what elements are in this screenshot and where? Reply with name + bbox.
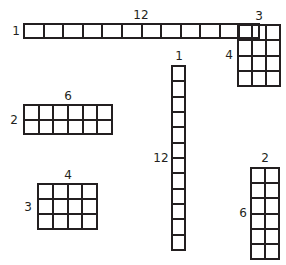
array-cell <box>82 214 97 229</box>
array-cell <box>172 81 185 96</box>
array-cell <box>53 105 68 120</box>
array-cell <box>38 199 53 214</box>
array-cell <box>83 120 98 135</box>
array-width-label: 4 <box>64 169 72 181</box>
array-cell <box>252 25 266 40</box>
array-cell <box>200 24 220 38</box>
array-cell <box>142 24 162 38</box>
array-cell <box>172 173 185 188</box>
array-cell <box>172 235 185 250</box>
array-cell <box>82 184 97 199</box>
array-4x3 <box>37 183 98 230</box>
array-cell <box>252 71 266 86</box>
array-height-label: 4 <box>225 49 233 61</box>
array-height-label: 3 <box>24 201 32 213</box>
array-cell <box>68 214 83 229</box>
array-12x1 <box>23 23 260 39</box>
array-cell <box>68 199 83 214</box>
array-cell <box>251 244 265 259</box>
array-cell <box>251 229 265 244</box>
array-cell <box>265 214 279 229</box>
array-cell <box>172 204 185 219</box>
array-cell <box>68 184 83 199</box>
array-3x4 <box>237 24 281 87</box>
array-cell <box>172 66 185 81</box>
array-cell <box>238 25 252 40</box>
array-2x6 <box>250 167 280 260</box>
array-cell <box>172 219 185 234</box>
array-cell <box>38 184 53 199</box>
array-cell <box>68 105 83 120</box>
array-cell <box>39 105 54 120</box>
array-6x2 <box>23 104 113 135</box>
array-cell <box>38 214 53 229</box>
array-cell <box>172 127 185 142</box>
array-cell <box>251 198 265 213</box>
array-cell <box>266 56 280 71</box>
array-cell <box>265 229 279 244</box>
array-cell <box>97 120 112 135</box>
array-height-label: 12 <box>153 152 168 164</box>
array-cell <box>252 56 266 71</box>
array-cell <box>24 24 44 38</box>
array-cell <box>265 168 279 183</box>
array-cell <box>265 244 279 259</box>
array-cell <box>161 24 181 38</box>
array-cell <box>266 40 280 55</box>
array-cell <box>24 105 39 120</box>
array-cell <box>44 24 64 38</box>
array-1x12 <box>171 65 186 251</box>
array-width-label: 3 <box>255 10 263 22</box>
array-cell <box>238 71 252 86</box>
array-cell <box>53 120 68 135</box>
array-cell <box>122 24 142 38</box>
array-cell <box>266 71 280 86</box>
array-cell <box>39 120 54 135</box>
array-cell <box>181 24 201 38</box>
array-height-label: 6 <box>239 207 247 219</box>
array-cell <box>251 168 265 183</box>
array-cell <box>252 40 266 55</box>
array-cell <box>53 184 68 199</box>
array-cell <box>265 198 279 213</box>
array-cell <box>63 24 83 38</box>
array-cell <box>172 97 185 112</box>
array-cell <box>83 105 98 120</box>
array-cell <box>172 143 185 158</box>
array-cell <box>24 120 39 135</box>
array-cell <box>265 183 279 198</box>
array-cell <box>266 25 280 40</box>
array-cell <box>172 158 185 173</box>
array-width-label: 6 <box>64 90 72 102</box>
array-cell <box>172 189 185 204</box>
array-width-label: 12 <box>133 9 148 21</box>
array-cell <box>251 183 265 198</box>
array-cell <box>53 214 68 229</box>
array-cell <box>238 56 252 71</box>
array-cell <box>83 24 103 38</box>
array-cell <box>251 214 265 229</box>
array-cell <box>102 24 122 38</box>
array-cell <box>97 105 112 120</box>
array-width-label: 1 <box>175 50 183 62</box>
array-cell <box>172 112 185 127</box>
array-cell <box>53 199 68 214</box>
array-width-label: 2 <box>261 152 269 164</box>
array-cell <box>238 40 252 55</box>
array-height-label: 1 <box>12 25 20 37</box>
array-cell <box>68 120 83 135</box>
array-height-label: 2 <box>10 114 18 126</box>
array-cell <box>82 199 97 214</box>
